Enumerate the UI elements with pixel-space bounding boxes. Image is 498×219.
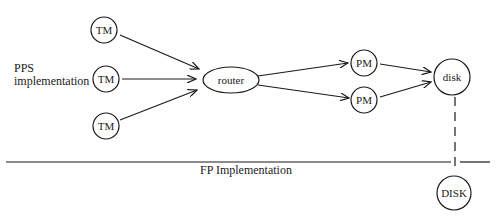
node-disk-label: disk [443, 71, 462, 83]
node-pm1-label: PM [356, 57, 372, 69]
fp-implementation-label: FP Implementation [200, 164, 292, 177]
node-tm3-label: TM [98, 120, 115, 132]
diagram-canvas: TM TM TM router PM PM disk DISK [0, 0, 498, 219]
node-tm3: TM [93, 113, 119, 139]
node-router-label: router [218, 74, 245, 86]
node-pm2: PM [351, 87, 377, 113]
edge-router-pm2 [258, 85, 349, 98]
edges [120, 35, 455, 172]
node-DISK-label: DISK [441, 187, 467, 199]
node-tm1-label: TM [96, 24, 113, 36]
edge-router-pm1 [258, 63, 348, 76]
node-pm2-label: PM [356, 94, 372, 106]
node-disk: disk [434, 59, 470, 95]
edge-pm1-disk [380, 64, 431, 72]
edge-tm1-router [120, 35, 199, 69]
node-router: router [203, 67, 259, 93]
node-tm2: TM [93, 66, 119, 92]
edge-tm3-router [120, 90, 197, 120]
node-tm1: TM [91, 17, 117, 43]
node-tm2-label: TM [98, 73, 115, 85]
pps-label-line2: implementation [14, 75, 89, 88]
node-pm1: PM [351, 50, 377, 76]
edge-pm2-disk [380, 82, 431, 97]
node-DISK: DISK [437, 176, 471, 210]
